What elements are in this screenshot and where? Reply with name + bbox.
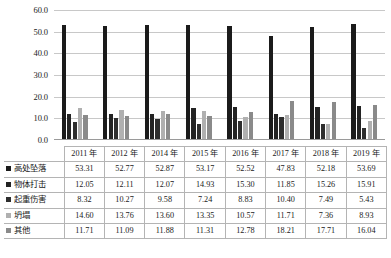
bar-group xyxy=(302,10,343,140)
table-row: 起重伤害8.3210.279.587.248.8310.407.495.43 xyxy=(4,193,387,208)
bar xyxy=(326,124,330,140)
table-column-header: 2017 年 xyxy=(266,147,306,162)
x-axis-line xyxy=(54,139,385,140)
table-cell: 8.93 xyxy=(346,208,386,223)
bar xyxy=(67,114,71,140)
table-cell: 16.04 xyxy=(346,223,386,238)
bar xyxy=(83,115,87,140)
table-cell: 8.32 xyxy=(65,193,105,208)
legend-label: 其他 xyxy=(14,226,30,235)
table-cell: 12.07 xyxy=(145,177,185,192)
bar xyxy=(238,121,242,140)
table-cell: 7.36 xyxy=(306,208,346,223)
table-column-header: 2019 年 xyxy=(346,147,386,162)
table-cell: 7.24 xyxy=(185,193,225,208)
chart-with-data-table: 0.010.020.030.040.050.060.0 2011 年2012 年… xyxy=(0,0,391,258)
table-row: 坍塌14.6013.7613.6013.3510.5711.717.368.93 xyxy=(4,208,387,223)
table-cell: 53.69 xyxy=(346,162,386,177)
bar xyxy=(114,118,118,140)
table-column-header: 2018 年 xyxy=(306,147,346,162)
bar xyxy=(119,110,123,140)
bar xyxy=(279,117,283,140)
table-cell: 11.88 xyxy=(145,223,185,238)
table-cell: 11.71 xyxy=(65,223,105,238)
table-cell: 7.49 xyxy=(306,193,346,208)
bar xyxy=(290,101,294,140)
table-cell: 13.35 xyxy=(185,208,225,223)
table-row: 高处坠落53.3152.7752.8753.1752.5247.8352.185… xyxy=(4,162,387,177)
bar xyxy=(332,102,336,140)
table-cell: 10.40 xyxy=(266,193,306,208)
table-column-header: 2012 年 xyxy=(104,147,144,162)
table-cell: 18.21 xyxy=(266,223,306,238)
bar xyxy=(373,105,377,140)
legend-swatch-icon xyxy=(6,228,11,233)
bar-chart: 0.010.020.030.040.050.060.0 xyxy=(0,0,391,146)
table-column-header: 2014 年 xyxy=(145,147,185,162)
bar xyxy=(233,107,237,140)
table-column-header: 2015 年 xyxy=(185,147,225,162)
bar xyxy=(155,119,159,140)
bar xyxy=(274,114,278,140)
y-axis-tick-label: 0.0 xyxy=(38,136,48,145)
y-axis-tick-label: 40.0 xyxy=(34,49,48,58)
bar xyxy=(368,121,372,140)
table-cell: 8.83 xyxy=(225,193,265,208)
bar xyxy=(161,111,165,140)
bar xyxy=(150,114,154,140)
bar xyxy=(166,114,170,140)
table-cell: 11.31 xyxy=(185,223,225,238)
table-cell: 47.83 xyxy=(266,162,306,177)
table-row: 其他11.7111.0911.8811.3112.7818.2117.7116.… xyxy=(4,223,387,238)
bar xyxy=(285,115,289,140)
data-table-body: 2011 年2012 年2014 年2015 年2016 年2017 年2018… xyxy=(4,147,387,239)
table-column-header: 2016 年 xyxy=(225,147,265,162)
table-row: 物体打击12.0512.1112.0714.9315.3011.8515.261… xyxy=(4,177,387,192)
table-cell: 12.05 xyxy=(65,177,105,192)
table-cell: 12.78 xyxy=(225,223,265,238)
legend-swatch-icon xyxy=(6,182,11,187)
bar xyxy=(145,25,149,140)
y-axis-tick-label: 50.0 xyxy=(34,27,48,36)
table-cell: 14.93 xyxy=(185,177,225,192)
legend-row-header: 其他 xyxy=(4,223,65,238)
table-cell: 13.60 xyxy=(145,208,185,223)
table-cell: 52.18 xyxy=(306,162,346,177)
legend-swatch-icon xyxy=(6,197,11,202)
bar-group xyxy=(261,10,302,140)
bar xyxy=(103,26,107,140)
bar xyxy=(202,111,206,140)
bar xyxy=(269,36,273,140)
bar xyxy=(249,112,253,140)
table-cell: 52.52 xyxy=(225,162,265,177)
bar xyxy=(351,24,355,140)
bar xyxy=(125,116,129,140)
bar xyxy=(78,108,82,140)
legend-label: 坍塌 xyxy=(14,211,30,220)
bar xyxy=(191,108,195,140)
legend-label: 高处坠落 xyxy=(14,164,46,173)
bar xyxy=(357,106,361,140)
table-header-row: 2011 年2012 年2014 年2015 年2016 年2017 年2018… xyxy=(4,147,387,162)
table-cell: 9.58 xyxy=(145,193,185,208)
y-axis-tick-label: 20.0 xyxy=(34,92,48,101)
plot-area xyxy=(54,10,385,140)
bar-group xyxy=(95,10,136,140)
bar xyxy=(243,117,247,140)
table-column-header: 2011 年 xyxy=(65,147,105,162)
table-cell: 52.87 xyxy=(145,162,185,177)
table-cell: 52.77 xyxy=(104,162,144,177)
table-cell: 15.26 xyxy=(306,177,346,192)
bar xyxy=(197,124,201,140)
bar xyxy=(62,25,66,141)
legend-row-header: 高处坠落 xyxy=(4,162,65,177)
legend-swatch-icon xyxy=(6,213,11,218)
legend-row-header: 物体打击 xyxy=(4,177,65,192)
data-table: 2011 年2012 年2014 年2015 年2016 年2017 年2018… xyxy=(4,146,387,239)
bar-group xyxy=(54,10,95,140)
table-cell: 12.11 xyxy=(104,177,144,192)
bar-groups xyxy=(54,10,385,140)
bar xyxy=(186,25,190,140)
bar xyxy=(227,26,231,140)
table-cell: 11.71 xyxy=(266,208,306,223)
